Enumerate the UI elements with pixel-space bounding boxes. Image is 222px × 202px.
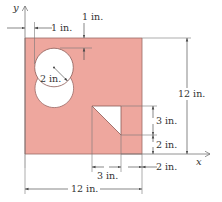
left-offset-label: 1 in.: [51, 22, 72, 33]
y-axis-label: y: [12, 2, 19, 13]
top-offset-label: 1 in.: [82, 11, 103, 22]
plate-height-label: 12 in.: [178, 88, 205, 99]
x-axis-label: x: [196, 156, 202, 167]
circle-radius-label: 2 in.: [40, 73, 61, 84]
triangle-width-label: 3 in.: [97, 170, 118, 181]
plate-width-label: 12 in.: [71, 183, 98, 194]
triangle-bottom-offset-label: 2 in.: [156, 139, 177, 150]
plate-diagram: 2 in. y x 1 in. 1 in. 12 in. 3 in. 2 in.…: [0, 0, 222, 202]
triangle-right-offset-label: 2 in.: [156, 161, 177, 172]
triangle-height-label: 3 in.: [156, 115, 177, 126]
